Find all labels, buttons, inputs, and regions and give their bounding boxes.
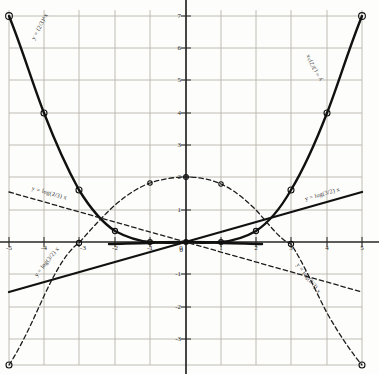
x-tick-label--1: -1 — [147, 244, 153, 252]
y-tick-label-6: 6 — [178, 44, 182, 52]
y-tick-label--2: -2 — [175, 303, 181, 311]
x-tick-label-2: 2 — [254, 244, 258, 252]
x-tick-label--3: -3 — [80, 244, 86, 252]
y-tick-label-2: 2 — [178, 173, 182, 181]
x-tick-label--5: -5 — [6, 244, 12, 252]
x-tick-label-1: 1 — [219, 244, 223, 252]
x-tick-label-4: 4 — [325, 244, 329, 252]
x-tick-label--4: -4 — [41, 244, 47, 252]
y-tick-label-4: 4 — [178, 109, 182, 117]
y-tick-label-7: 7 — [178, 12, 182, 20]
y-tick-label-5: 5 — [178, 76, 182, 84]
y-tick-label--3: -3 — [175, 335, 181, 343]
x-tick-label-3: 3 — [289, 244, 293, 252]
plot-canvas — [0, 0, 379, 374]
x-tick-label--2: -2 — [112, 244, 118, 252]
x-tick-label-5: 5 — [360, 244, 364, 252]
y-tick-label--1: -1 — [175, 270, 181, 278]
graph-figure: -5 -4 -3 -2 -1 0 1 2 3 4 5 7 6 5 4 3 2 1… — [0, 0, 379, 374]
y-tick-label-3: 3 — [178, 141, 182, 149]
y-tick-label-1: 1 — [178, 206, 182, 214]
y-tick-label-0: 0 — [180, 246, 184, 254]
